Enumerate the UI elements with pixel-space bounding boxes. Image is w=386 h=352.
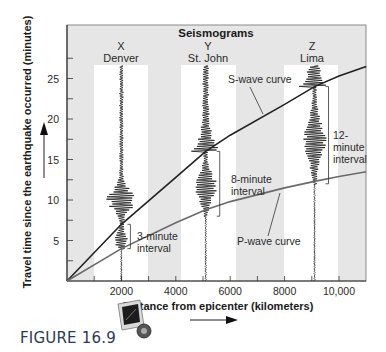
p-wave-label: P-wave curve <box>237 235 301 247</box>
chart-title: Seismograms <box>178 27 253 39</box>
interval-label-lima-1: 12- <box>333 129 349 141</box>
y-tick-label: 25 <box>47 73 59 85</box>
interval-label-denver-2: interval <box>137 242 171 254</box>
y-axis-label: Travel time since the earthquake occurre… <box>21 15 33 288</box>
interval-label-stjohn-2: interval <box>231 185 265 197</box>
x-tick-label: 2000 <box>110 285 134 297</box>
station-name-lima: Lima <box>300 52 325 64</box>
station-name-stjohn: St. John <box>188 52 228 64</box>
x-tick-label: 10,000 <box>323 285 355 297</box>
x-axis-arrow-icon <box>226 316 238 324</box>
x-axis-label: Distance from epicenter (kilometers) <box>123 300 314 312</box>
interval-label-lima-3: interval <box>333 153 367 165</box>
station-letter-y: Y <box>204 40 212 52</box>
station-letter-z: Z <box>309 40 316 52</box>
figure-label: FIGURE 16.9 <box>20 329 116 347</box>
x-tick-label: 4000 <box>164 285 188 297</box>
station-name-denver: Denver <box>103 52 139 64</box>
y-tick-label: 20 <box>47 113 59 125</box>
y-tick-label: 15 <box>47 154 59 166</box>
y-tick-label: 5 <box>53 235 59 247</box>
x-tick-label: 6000 <box>219 285 243 297</box>
seismogram-figure: 200040006000800010,000510152025 Seismogr… <box>0 0 386 352</box>
y-tick-label: 10 <box>47 194 59 206</box>
interval-label-denver-1: 3-minute <box>137 230 178 242</box>
x-tick-label: 8000 <box>273 285 297 297</box>
station-letter-x: X <box>117 40 125 52</box>
interval-label-lima-2: minute <box>333 141 365 153</box>
s-wave-label: S-wave curve <box>228 73 292 85</box>
interval-label-stjohn-1: 8-minute <box>231 173 272 185</box>
